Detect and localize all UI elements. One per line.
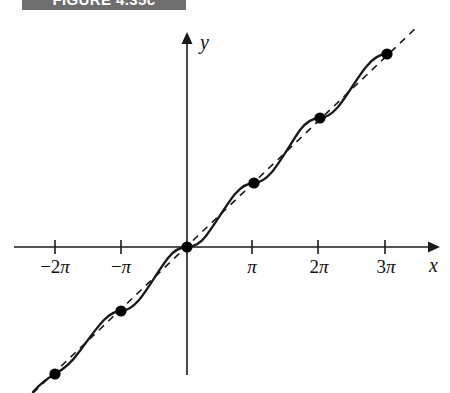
x-axis-label: x	[429, 254, 438, 277]
tick-label-negpi: −π	[96, 256, 146, 278]
tick-label-3pi-number: 3	[376, 256, 386, 277]
y-axis-arrow-icon	[182, 32, 193, 44]
tick-label-neg2pi-pi: π	[60, 256, 70, 277]
tick-label-2pi-number: 2	[309, 256, 319, 277]
tick-label-2pi: 2π	[294, 256, 344, 278]
tick-label-neg2pi: −2π	[25, 256, 85, 278]
figure-container: FIGURE 4.35c −2π −π π 2π	[0, 0, 450, 393]
plot-area	[0, 0, 450, 393]
x-axis-arrow-icon	[428, 242, 440, 253]
y-axis-label: y	[200, 31, 209, 54]
tick-label-pi: π	[232, 256, 272, 278]
marked-point-neg2pi	[49, 368, 60, 379]
tick-label-negpi-pi: π	[122, 256, 132, 277]
marked-point-3pi	[381, 48, 392, 59]
marked-point-2pi	[314, 112, 325, 123]
tick-label-3pi: 3π	[361, 256, 411, 278]
tick-label-neg2pi-number: −2	[40, 256, 60, 277]
tick-label-negpi-sign: −	[111, 256, 122, 277]
tick-label-3pi-pi: π	[386, 256, 396, 277]
marked-point-origin	[181, 241, 192, 252]
tick-label-2pi-pi: π	[319, 256, 329, 277]
tick-label-pi-pi: π	[247, 256, 257, 277]
marked-point-pi	[248, 177, 259, 188]
marked-point-negpi	[115, 305, 126, 316]
function-curve	[33, 54, 387, 392]
